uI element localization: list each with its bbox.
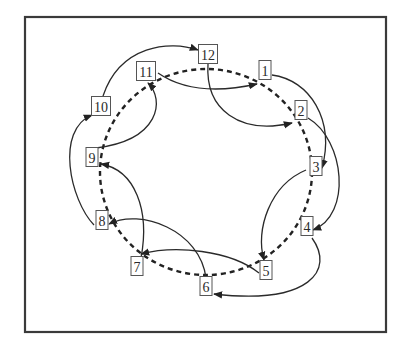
node-6: 6 <box>200 277 212 296</box>
node-10: 10 <box>92 97 111 116</box>
edge-12-2 <box>208 64 292 126</box>
node-label: 7 <box>134 260 141 275</box>
node-label: 4 <box>304 220 311 235</box>
node-label: 11 <box>139 65 152 80</box>
nodes: 123456789101112 <box>86 45 322 296</box>
node-7: 7 <box>131 257 143 276</box>
node-9: 9 <box>86 148 98 167</box>
node-label: 3 <box>313 160 320 175</box>
node-8: 8 <box>96 211 108 230</box>
ring-diagram: 123456789101112 <box>0 0 410 347</box>
dashed-ring <box>100 69 312 275</box>
node-label: 2 <box>298 104 305 119</box>
node-label: 12 <box>201 48 215 63</box>
edge-3-5 <box>261 170 306 260</box>
node-2: 2 <box>295 101 307 120</box>
node-label: 5 <box>263 264 270 279</box>
node-12: 12 <box>199 45 218 64</box>
node-label: 6 <box>203 280 210 295</box>
edge-6-8 <box>109 219 206 278</box>
node-1: 1 <box>259 61 271 80</box>
node-5: 5 <box>260 261 272 280</box>
edges <box>70 46 339 296</box>
node-label: 9 <box>89 151 96 166</box>
node-label: 1 <box>262 64 269 79</box>
node-label: 10 <box>94 100 108 115</box>
node-11: 11 <box>137 62 156 81</box>
node-4: 4 <box>301 217 313 236</box>
edge-8-10 <box>70 115 94 225</box>
node-label: 8 <box>99 214 106 229</box>
node-3: 3 <box>310 157 322 176</box>
